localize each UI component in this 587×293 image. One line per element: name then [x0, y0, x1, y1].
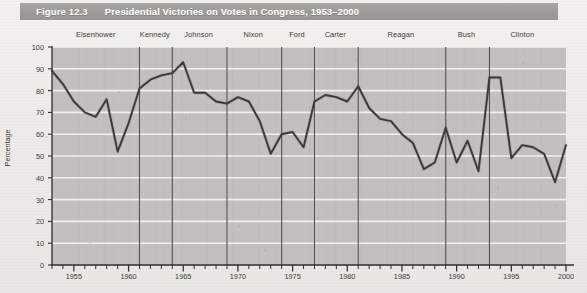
line-chart [0, 0, 587, 293]
figure-container: Figure 12.3 Presidential Victories on Vo… [0, 0, 587, 293]
plot-area-wrapper: Percentage 0102030405060708090100 195519… [0, 0, 587, 293]
